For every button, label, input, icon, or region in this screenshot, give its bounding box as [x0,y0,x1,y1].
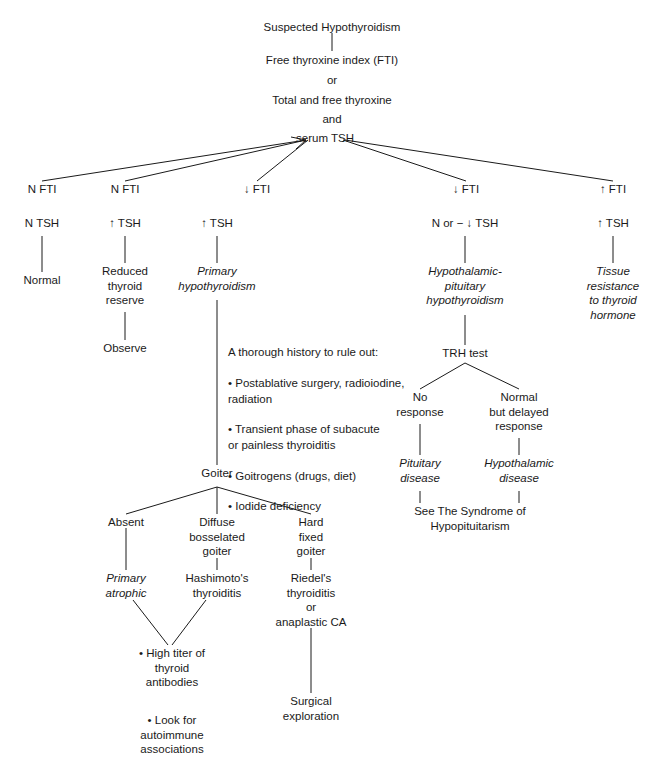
node-no-response: No response [396,390,443,419]
node-observe: Observe [103,341,146,356]
flowchart-canvas: Suspected Hypothyroidism Free thyroxine … [0,0,664,777]
node-fti-test: Free thyroxine index (FTI) [266,53,398,68]
node-and: and [322,112,341,127]
node-col5-fti: ↑ FTI [600,182,626,197]
node-goiter-absent: Absent [108,515,144,530]
node-col1-tsh: N TSH [25,216,59,231]
node-hashimotos-thyroiditis: Hashimoto's thyroiditis [186,571,249,600]
node-col2-fti: N FTI [111,182,140,197]
node-primary-atrophic: Primary atrophic [106,571,147,600]
node-goiter-hard-fixed: Hard fixed goiter [297,515,326,559]
node-hypothalamic-disease: Hypothalamic disease [484,456,554,485]
node-root: Suspected Hypothyroidism [264,20,401,35]
node-col3-tsh: ↑ TSH [201,216,233,231]
node-delayed-response: Normal but delayed response [489,390,548,434]
history-checklist: A thorough history to rule out: • Postab… [228,330,478,530]
node-reduced-thyroid-reserve: Reduced thyroid reserve [102,264,148,308]
node-normal: Normal [23,273,60,288]
node-surgical-exploration: Surgical exploration [283,694,339,723]
node-trh-test: TRH test [442,346,487,361]
node-col4-tsh: N or − ↓ TSH [432,216,499,231]
node-or: or [327,73,337,88]
node-goiter-diffuse-bosselated: Diffuse bosselated goiter [189,515,245,559]
node-tissue-resistance: Tissue resistance to thyroid hormone [587,264,639,322]
node-col5-tsh: ↑ TSH [597,216,629,231]
node-look-for-autoimmune: • Look for autoimmune associations [140,713,203,757]
node-col1-fti: N FTI [28,182,57,197]
node-total-free-thyroxine: Total and free thyroxine [272,93,392,108]
node-see-syndrome-hypopituitarism: See The Syndrome of Hypopituitarism [373,504,567,533]
node-riedels-thyroiditis: Riedel's thyroiditis or anaplastic CA [276,571,347,629]
node-col4-fti: ↓ FTI [453,182,479,197]
node-goiter: Goiter [201,466,232,481]
node-hypothalamic-pituitary-hypothyroidism: Hypothalamic- pituitary hypothyroidism [426,264,503,308]
history-header: A thorough history to rule out: [228,345,478,360]
history-item: • Transient phase of subacute or painles… [228,422,478,453]
node-serum-tsh: serum TSH [296,131,354,146]
node-pituitary-disease: Pituitary disease [399,456,441,485]
node-col2-tsh: ↑ TSH [109,216,141,231]
node-high-titer-antibodies: • High titer of thyroid antibodies [139,646,205,690]
node-col3-fti: ↓ FTI [244,182,270,197]
node-primary-hypothyroidism: Primary hypothyroidism [178,264,255,293]
